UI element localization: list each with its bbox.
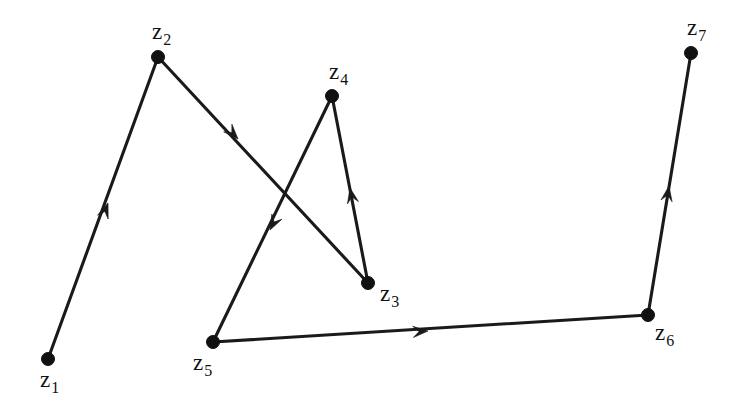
node-dot-z4 [326,90,339,103]
graph-canvas [0,0,751,414]
node-label-subscript-z7: 7 [698,27,706,44]
node-label-subscript-z4: 4 [340,71,348,88]
node-label-base-z1: z [40,367,50,392]
node-label-subscript-z6: 6 [666,332,674,349]
edge-z6-to-z7 [648,53,691,315]
node-label-base-z2: z [152,19,162,44]
arrowhead-barb [413,325,429,337]
node-label-base-z6: z [655,320,665,345]
node-label-z2: z2 [152,20,170,43]
node-label-base-z3: z [380,281,390,306]
node-label-subscript-z2: 2 [163,31,171,48]
node-label-z7: z7 [687,16,705,39]
edge-z5-to-z6 [213,315,648,342]
edges-layer [48,53,691,359]
node-label-z3: z3 [380,282,398,305]
arrowhead-barb [224,124,242,143]
node-label-z1: z1 [40,368,58,391]
node-dot-z7 [685,47,698,60]
node-label-base-z5: z [193,350,203,375]
node-label-z4: z4 [329,60,347,83]
node-label-z5: z5 [193,351,211,374]
node-label-subscript-z1: 1 [51,379,59,396]
arrowhead-z5-to-z6 [413,325,429,337]
node-label-base-z4: z [329,59,339,84]
node-label-subscript-z5: 5 [204,362,212,379]
edge-z1-to-z2 [48,57,158,359]
node-dot-z3 [362,277,375,290]
node-dot-z1 [42,353,55,366]
node-label-subscript-z3: 3 [391,293,399,310]
arrowhead-z2-to-z3 [224,124,242,143]
node-dot-z5 [207,336,220,349]
diagram-figure: z1z2z3z4z5z6z7 [0,0,751,414]
node-label-base-z7: z [687,15,697,40]
node-dot-z2 [152,51,165,64]
node-label-z6: z6 [655,321,673,344]
node-dot-z6 [642,309,655,322]
